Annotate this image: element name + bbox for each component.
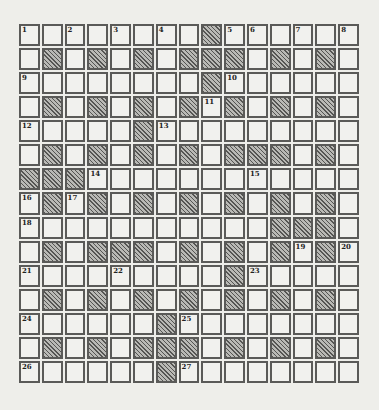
answer-cell[interactable]: 5 (224, 24, 245, 46)
answer-cell[interactable] (65, 361, 86, 383)
answer-cell[interactable] (19, 144, 40, 166)
answer-cell[interactable] (87, 72, 108, 94)
answer-cell[interactable] (65, 289, 86, 311)
answer-cell[interactable] (293, 168, 314, 190)
answer-cell[interactable] (270, 168, 291, 190)
answer-cell[interactable] (156, 96, 177, 118)
answer-cell[interactable] (156, 265, 177, 287)
answer-cell[interactable] (19, 337, 40, 359)
answer-cell[interactable] (315, 361, 336, 383)
answer-cell[interactable] (179, 168, 200, 190)
answer-cell[interactable] (201, 217, 222, 239)
answer-cell[interactable] (338, 144, 359, 166)
answer-cell[interactable] (179, 24, 200, 46)
answer-cell[interactable] (201, 289, 222, 311)
answer-cell[interactable] (201, 192, 222, 214)
answer-cell[interactable] (110, 313, 131, 335)
answer-cell[interactable] (65, 241, 86, 263)
answer-cell[interactable] (270, 313, 291, 335)
answer-cell[interactable] (133, 217, 154, 239)
answer-cell[interactable] (247, 361, 268, 383)
answer-cell[interactable] (224, 120, 245, 142)
answer-cell[interactable]: 24 (19, 313, 40, 335)
answer-cell[interactable]: 9 (19, 72, 40, 94)
answer-cell[interactable]: 2 (65, 24, 86, 46)
answer-cell[interactable] (65, 217, 86, 239)
answer-cell[interactable] (293, 313, 314, 335)
answer-cell[interactable] (156, 168, 177, 190)
answer-cell[interactable] (19, 241, 40, 263)
answer-cell[interactable] (247, 241, 268, 263)
answer-cell[interactable] (201, 313, 222, 335)
answer-cell[interactable] (315, 168, 336, 190)
answer-cell[interactable] (201, 241, 222, 263)
answer-cell[interactable]: 17 (65, 192, 86, 214)
answer-cell[interactable] (338, 120, 359, 142)
answer-cell[interactable] (201, 144, 222, 166)
answer-cell[interactable] (65, 265, 86, 287)
answer-cell[interactable] (315, 120, 336, 142)
answer-cell[interactable] (338, 168, 359, 190)
answer-cell[interactable] (87, 313, 108, 335)
answer-cell[interactable] (247, 289, 268, 311)
answer-cell[interactable] (87, 265, 108, 287)
answer-cell[interactable] (42, 120, 63, 142)
answer-cell[interactable]: 4 (156, 24, 177, 46)
answer-cell[interactable]: 16 (19, 192, 40, 214)
answer-cell[interactable] (201, 168, 222, 190)
answer-cell[interactable] (315, 72, 336, 94)
answer-cell[interactable] (87, 24, 108, 46)
answer-cell[interactable] (110, 361, 131, 383)
answer-cell[interactable] (338, 361, 359, 383)
answer-cell[interactable]: 21 (19, 265, 40, 287)
answer-cell[interactable] (65, 72, 86, 94)
answer-cell[interactable] (133, 265, 154, 287)
answer-cell[interactable] (338, 313, 359, 335)
answer-cell[interactable] (65, 313, 86, 335)
answer-cell[interactable] (156, 192, 177, 214)
answer-cell[interactable] (247, 72, 268, 94)
answer-cell[interactable] (65, 337, 86, 359)
answer-cell[interactable] (133, 72, 154, 94)
answer-cell[interactable] (293, 192, 314, 214)
answer-cell[interactable] (338, 72, 359, 94)
answer-cell[interactable]: 12 (19, 120, 40, 142)
answer-cell[interactable] (110, 289, 131, 311)
answer-cell[interactable] (65, 96, 86, 118)
answer-cell[interactable] (247, 313, 268, 335)
answer-cell[interactable]: 18 (19, 217, 40, 239)
answer-cell[interactable] (201, 361, 222, 383)
answer-cell[interactable] (42, 265, 63, 287)
answer-cell[interactable] (315, 265, 336, 287)
answer-cell[interactable]: 15 (247, 168, 268, 190)
answer-cell[interactable] (42, 361, 63, 383)
answer-cell[interactable] (19, 96, 40, 118)
answer-cell[interactable] (338, 192, 359, 214)
answer-cell[interactable] (87, 120, 108, 142)
answer-cell[interactable] (201, 337, 222, 359)
answer-cell[interactable]: 27 (179, 361, 200, 383)
answer-cell[interactable] (293, 144, 314, 166)
answer-cell[interactable] (110, 217, 131, 239)
answer-cell[interactable] (133, 168, 154, 190)
answer-cell[interactable]: 20 (338, 241, 359, 263)
answer-cell[interactable] (110, 337, 131, 359)
answer-cell[interactable] (247, 96, 268, 118)
answer-cell[interactable] (270, 265, 291, 287)
answer-cell[interactable] (338, 289, 359, 311)
answer-cell[interactable] (293, 265, 314, 287)
answer-cell[interactable] (110, 96, 131, 118)
answer-cell[interactable] (293, 48, 314, 70)
answer-cell[interactable]: 11 (201, 96, 222, 118)
answer-cell[interactable]: 23 (247, 265, 268, 287)
answer-cell[interactable] (156, 72, 177, 94)
answer-cell[interactable] (65, 48, 86, 70)
answer-cell[interactable] (270, 120, 291, 142)
answer-cell[interactable] (224, 361, 245, 383)
answer-cell[interactable] (42, 24, 63, 46)
answer-cell[interactable] (224, 168, 245, 190)
answer-cell[interactable] (293, 120, 314, 142)
answer-cell[interactable] (42, 313, 63, 335)
answer-cell[interactable] (247, 48, 268, 70)
answer-cell[interactable] (338, 265, 359, 287)
